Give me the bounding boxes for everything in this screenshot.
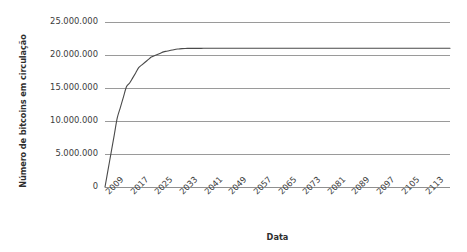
y-tick-label: 20.000.000 [18, 50, 98, 59]
y-tick-label: 0 [18, 182, 98, 191]
y-tick-label: 15.000.000 [18, 83, 98, 92]
bitcoin-supply-chart: Número de bitcoins em circulação 25.000.… [0, 0, 467, 252]
y-axis-title: Número de bitcoins em circulação [16, 16, 30, 206]
x-axis-title: Data [105, 232, 450, 243]
y-tick-label: 5.000.000 [18, 149, 98, 158]
plot-area [105, 22, 450, 187]
axis-baseline [105, 187, 450, 188]
series-line-bitcoins [105, 22, 450, 187]
y-tick-label: 25.000.000 [18, 17, 98, 26]
y-tick-label: 10.000.000 [18, 116, 98, 125]
